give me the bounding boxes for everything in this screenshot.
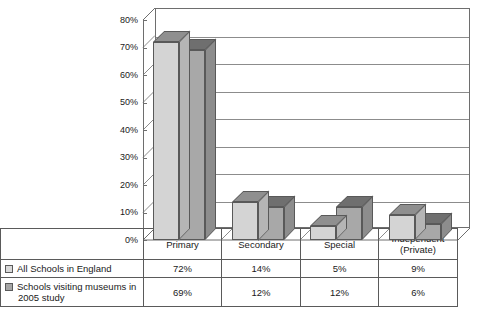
bar-side-face: [179, 31, 190, 240]
legend-swatch-series2: [5, 283, 13, 291]
table-corner-cell: [1, 229, 144, 260]
column-header-independent-sublabel: (Private): [400, 244, 436, 255]
cell-series2-special: 12%: [301, 278, 379, 307]
cell-series1-special: 5%: [301, 260, 379, 278]
bar-chart: 80% 70% 60% 50% 40% 30% 20% 10% 0%: [0, 0, 481, 258]
bar-independent-private--series1: [389, 215, 415, 240]
bar-front-face: [389, 215, 415, 240]
cell-series2-secondary: 12%: [222, 278, 301, 307]
cell-series1-primary: 72%: [144, 260, 222, 278]
bar-secondary-series1: [232, 202, 258, 241]
bar-front-face: [153, 42, 179, 240]
bar-front-face: [310, 226, 336, 240]
cell-series1-secondary: 14%: [222, 260, 301, 278]
bar-side-face: [205, 39, 216, 240]
legend-museum-schools: Schools visiting museums in 2005 study: [1, 278, 144, 307]
column-header-secondary-label: Secondary: [238, 239, 283, 250]
legend-label-series2-line2: 2005 study: [5, 292, 64, 303]
column-header-primary-label: Primary: [166, 239, 199, 250]
bar-special-series1: [310, 226, 336, 240]
cell-series2-primary: 69%: [144, 278, 222, 307]
legend-label-series2: Schools visiting museums in: [17, 281, 136, 292]
table-row: All Schools in England 72% 14% 5% 9%: [1, 260, 458, 278]
bar-columns: [0, 0, 481, 258]
legend-swatch-series1: [5, 265, 13, 273]
cell-series2-independent: 6%: [379, 278, 458, 307]
legend-label-series1: All Schools in England: [17, 263, 112, 274]
legend-all-schools: All Schools in England: [1, 260, 144, 278]
column-header-special-label: Special: [324, 239, 355, 250]
cell-series1-independent: 9%: [379, 260, 458, 278]
bar-primary-series1: [153, 42, 179, 240]
chart-page: 80% 70% 60% 50% 40% 30% 20% 10% 0% Prima…: [0, 0, 481, 333]
table-row: Schools visiting museums in 2005 study 6…: [1, 278, 458, 307]
bar-front-face: [232, 202, 258, 241]
